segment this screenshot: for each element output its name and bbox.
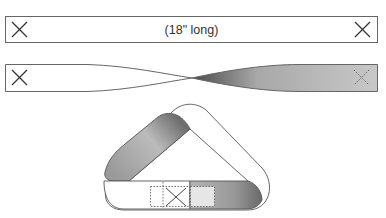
half-twisted-strip [6,65,378,92]
mobius-loop [104,104,270,210]
strip-length-label: (18" long) [5,17,378,43]
